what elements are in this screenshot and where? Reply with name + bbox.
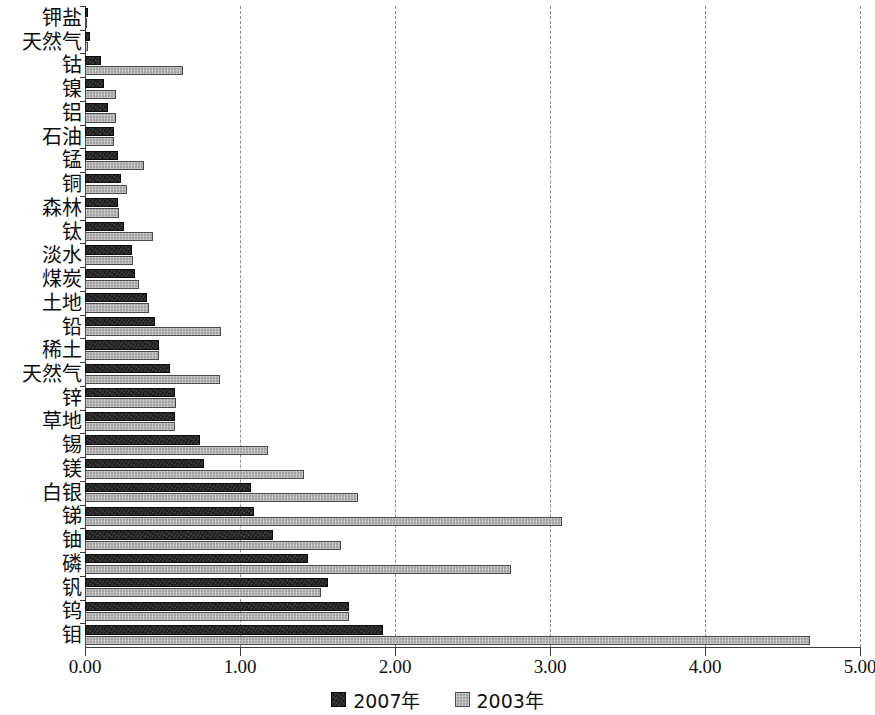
category-label: 锡 [0, 435, 82, 455]
category-label: 天然气 [0, 364, 82, 384]
category-label: 煤炭 [0, 269, 82, 289]
bar-2007 [85, 507, 254, 516]
x-tick-mark [550, 647, 551, 656]
category-label: 石油 [0, 127, 82, 147]
x-tick-label: 5.00 [844, 656, 875, 678]
bar-2007 [85, 364, 170, 373]
bar-2007 [85, 388, 175, 397]
category-label: 钨 [0, 601, 82, 621]
bar-2003 [85, 398, 176, 407]
bar-2003 [85, 42, 88, 51]
bar-2003 [85, 541, 341, 550]
y-tick-mark [80, 410, 86, 411]
y-tick-mark [80, 362, 86, 363]
bar-2003 [85, 517, 562, 526]
legend-label: 2003年 [477, 686, 544, 713]
x-tick-mark [85, 647, 86, 656]
legend-swatch-2003 [455, 692, 470, 707]
bar-2007 [85, 127, 114, 136]
category-label: 土地 [0, 293, 82, 313]
bar-2003 [85, 137, 114, 146]
plot-area [85, 6, 860, 647]
bar-2003 [85, 303, 149, 312]
y-tick-mark [80, 457, 86, 458]
y-tick-mark [80, 291, 86, 292]
category-label: 钴 [0, 55, 82, 75]
y-tick-mark [80, 172, 86, 173]
y-tick-mark [80, 600, 86, 601]
x-tick-label: 4.00 [689, 656, 721, 678]
y-tick-mark [80, 196, 86, 197]
bar-2007 [85, 103, 108, 112]
y-tick-mark [80, 101, 86, 102]
bar-2007 [85, 625, 383, 634]
category-label: 钛 [0, 222, 82, 242]
category-label: 铅 [0, 317, 82, 337]
y-tick-mark [80, 243, 86, 244]
bar-2007 [85, 174, 121, 183]
y-tick-mark [80, 30, 86, 31]
x-axis-line [85, 647, 860, 648]
gridline-2.00 [395, 6, 396, 647]
legend-item[interactable]: 2007年 [331, 686, 420, 713]
category-label: 稀土 [0, 340, 82, 360]
bar-2007 [85, 79, 104, 88]
bar-2007 [85, 32, 90, 41]
bar-2003 [85, 612, 349, 621]
category-label: 铀 [0, 530, 82, 550]
bar-2007 [85, 151, 118, 160]
bar-2003 [85, 113, 116, 122]
x-tick-label: 1.00 [224, 656, 256, 678]
bar-2007 [85, 222, 124, 231]
bar-2003 [85, 565, 511, 574]
category-label: 磷 [0, 554, 82, 574]
bar-2003 [85, 66, 183, 75]
bar-2007 [85, 8, 88, 17]
bar-2003 [85, 232, 153, 241]
bar-2007 [85, 554, 308, 563]
y-tick-mark [80, 481, 86, 482]
y-tick-mark [80, 315, 86, 316]
gridline-3.00 [550, 6, 551, 647]
bar-2003 [85, 18, 87, 27]
category-axis-labels: 钾盐天然气钴镍铝石油锰铜森林钛淡水煤炭土地铅稀土天然气锌草地锡镁白银锑铀磷钒钨钼 [0, 0, 82, 715]
x-tick-mark [860, 647, 861, 656]
category-label: 白银 [0, 483, 82, 503]
y-tick-mark [80, 528, 86, 529]
legend-label: 2007年 [353, 686, 420, 713]
y-tick-mark [80, 338, 86, 339]
bar-2007 [85, 435, 200, 444]
bar-2003 [85, 327, 221, 336]
y-tick-mark [80, 267, 86, 268]
x-tick-label: 0.00 [69, 656, 101, 678]
category-label: 淡水 [0, 245, 82, 265]
bar-2007 [85, 602, 349, 611]
bar-2003 [85, 636, 810, 645]
bar-2003 [85, 280, 139, 289]
y-tick-mark [80, 552, 86, 553]
y-tick-mark [80, 386, 86, 387]
category-label: 钼 [0, 625, 82, 645]
y-tick-mark [80, 220, 86, 221]
y-tick-mark [80, 6, 86, 7]
bar-2007 [85, 578, 328, 587]
y-tick-mark [80, 125, 86, 126]
bar-2003 [85, 446, 268, 455]
bar-2003 [85, 161, 144, 170]
x-tick-label: 3.00 [534, 656, 566, 678]
y-tick-mark [80, 576, 86, 577]
category-label: 锑 [0, 506, 82, 526]
y-tick-mark [80, 505, 86, 506]
bar-2007 [85, 530, 273, 539]
legend-item[interactable]: 2003年 [455, 686, 544, 713]
category-label: 草地 [0, 411, 82, 431]
gridline-4.00 [705, 6, 706, 647]
x-tick-mark [240, 647, 241, 656]
x-tick-mark [395, 647, 396, 656]
gridline-5.00 [860, 6, 861, 647]
bar-2007 [85, 340, 159, 349]
y-tick-mark [80, 148, 86, 149]
bar-2003 [85, 90, 116, 99]
category-label: 铜 [0, 174, 82, 194]
chart-legend: 2007年2003年 [0, 686, 875, 713]
